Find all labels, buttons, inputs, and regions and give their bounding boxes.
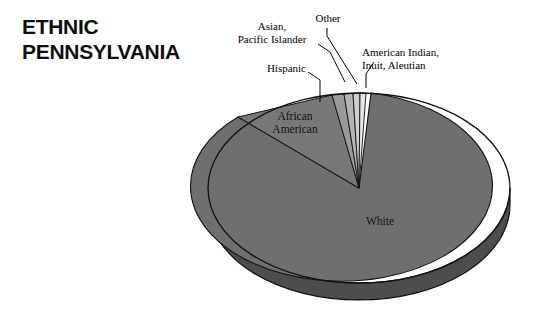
slice-label-white: White [350, 215, 410, 228]
slice-label-other: Other [304, 12, 352, 25]
chart-canvas: ETHNIC PENNSYLVANIA Hispanic Asian, [0, 0, 535, 333]
leader-line-asian-pacific-islander [318, 44, 345, 82]
slice-label-american-indian: American Indian, Inuit, Aleutian [362, 46, 498, 71]
slice-label-african-american: African American [252, 110, 338, 136]
slice-label-hispanic: Hispanic [232, 62, 306, 75]
